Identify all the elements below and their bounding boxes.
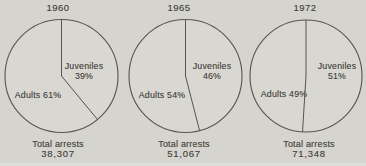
juveniles-pct: 46% <box>193 72 231 82</box>
juveniles-label-1965: Juveniles 46% <box>193 62 231 81</box>
total-arrests-1960: Total arrests 38,307 <box>32 140 84 159</box>
total-arrests-1972: Total arrests 71,348 <box>283 140 335 159</box>
total-arrests-value: 38,307 <box>32 149 84 158</box>
adults-label-1972: Adults 49% <box>261 90 308 100</box>
total-arrests-value: 71,348 <box>283 149 335 158</box>
juveniles-label-1960: Juveniles 39% <box>65 62 103 81</box>
chart-year-1960: 1960 <box>46 2 69 13</box>
juveniles-label-1972: Juveniles 51% <box>318 62 356 81</box>
total-arrests-1965: Total arrests 51,067 <box>158 140 210 159</box>
chart-year-1965: 1965 <box>167 2 190 13</box>
adults-label-1965: Adults 54% <box>139 91 186 101</box>
chart-year-1972: 1972 <box>293 2 316 13</box>
juveniles-pct: 51% <box>318 72 356 82</box>
juvenile-adult-arrests-pie-figure: 1960 Juveniles 39% Adults 61% Total arre… <box>0 0 366 166</box>
adults-label-1960: Adults 61% <box>15 91 62 101</box>
total-arrests-value: 51,067 <box>158 149 210 158</box>
juveniles-pct: 39% <box>65 72 103 82</box>
